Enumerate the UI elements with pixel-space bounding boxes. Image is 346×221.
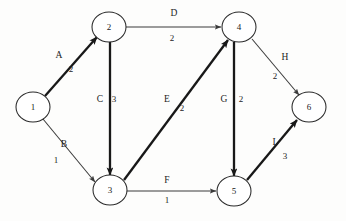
network-diagram: 123456 A2B1C3D2E2F1G2H2I3 — [0, 0, 346, 221]
edge-weight-h: 2 — [273, 71, 278, 81]
node-label-5: 5 — [232, 186, 237, 196]
graph-canvas: 123456 A2B1C3D2E2F1G2H2I3 — [0, 0, 346, 221]
node-1[interactable]: 1 — [16, 92, 50, 122]
edge-label-layer: A2B1C3D2E2F1G2H2I3 — [54, 8, 289, 205]
edge-weight-g: 2 — [239, 94, 244, 104]
node-4[interactable]: 4 — [222, 12, 256, 42]
edge-b-1-to-3 — [43, 119, 95, 182]
edge-e-3-to-4 — [124, 40, 228, 180]
edge-label-c: C — [97, 94, 103, 104]
edge-weight-d: 2 — [170, 33, 175, 43]
edge-i-5-to-6 — [247, 120, 297, 180]
edge-label-f: F — [164, 175, 169, 185]
node-label-2: 2 — [107, 22, 112, 32]
edge-label-b: B — [61, 139, 67, 149]
edge-label-g: G — [221, 94, 228, 104]
node-6[interactable]: 6 — [292, 92, 326, 122]
node-label-3: 3 — [108, 185, 113, 195]
edge-h-4-to-6 — [252, 39, 299, 95]
edge-label-e: E — [164, 94, 170, 104]
edge-label-a: A — [56, 50, 63, 60]
node-label-6: 6 — [307, 102, 312, 112]
edge-label-d: D — [171, 8, 178, 18]
node-5[interactable]: 5 — [217, 176, 251, 206]
edge-weight-a: 2 — [69, 64, 74, 74]
node-2[interactable]: 2 — [92, 12, 126, 42]
edge-weight-b: 1 — [54, 155, 59, 165]
edge-weight-c: 3 — [112, 94, 117, 104]
node-label-1: 1 — [31, 102, 36, 112]
node-3[interactable]: 3 — [93, 175, 127, 205]
edge-label-h: H — [282, 52, 289, 62]
edge-weight-f: 1 — [165, 195, 170, 205]
node-label-4: 4 — [237, 22, 242, 32]
edge-weight-e: 2 — [180, 103, 185, 113]
edge-label-i: I — [272, 137, 275, 147]
edge-layer — [43, 27, 299, 191]
edge-weight-i: 3 — [283, 151, 288, 161]
